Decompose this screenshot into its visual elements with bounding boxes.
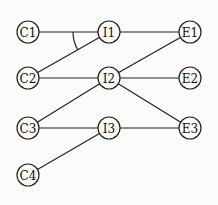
edge-i2-e3 (109, 78, 190, 128)
node-i1: I1 (98, 21, 120, 43)
node-label: E3 (182, 122, 198, 136)
node-label: E1 (182, 26, 198, 40)
node-e3: E3 (179, 117, 201, 139)
node-c2: C2 (17, 67, 39, 89)
node-label: I3 (103, 122, 115, 136)
edge-c3-i2 (28, 78, 109, 128)
edges (28, 32, 190, 175)
node-label: I2 (103, 72, 115, 86)
node-label: E2 (182, 72, 198, 86)
nodes: C1C2C3C4I1I2I3E1E2E3 (17, 21, 201, 186)
node-e2: E2 (179, 67, 201, 89)
node-i2: I2 (98, 67, 120, 89)
node-label: C1 (20, 26, 37, 40)
node-label: C2 (20, 72, 37, 86)
node-label: C3 (20, 122, 37, 136)
edge-c4-i3 (28, 128, 109, 175)
network-diagram: C1C2C3C4I1I2I3E1E2E3 (0, 0, 218, 205)
edge-c2-i1 (28, 32, 109, 78)
node-i3: I3 (98, 117, 120, 139)
node-e1: E1 (179, 21, 201, 43)
edge-i2-e1 (109, 32, 190, 78)
node-label: I1 (103, 26, 115, 40)
node-c1: C1 (17, 21, 39, 43)
node-c4: C4 (17, 164, 39, 186)
node-c3: C3 (17, 117, 39, 139)
and-arc (73, 32, 78, 50)
node-label: C4 (20, 169, 37, 183)
